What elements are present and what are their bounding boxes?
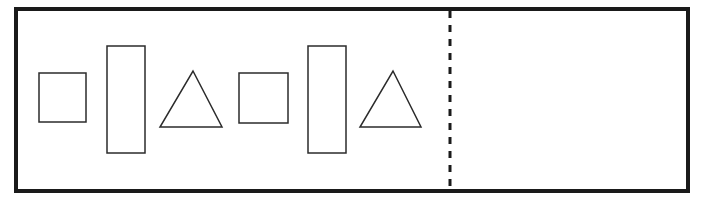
shape-panel-canvas <box>0 0 705 212</box>
shape-sorting-panel <box>14 7 690 193</box>
